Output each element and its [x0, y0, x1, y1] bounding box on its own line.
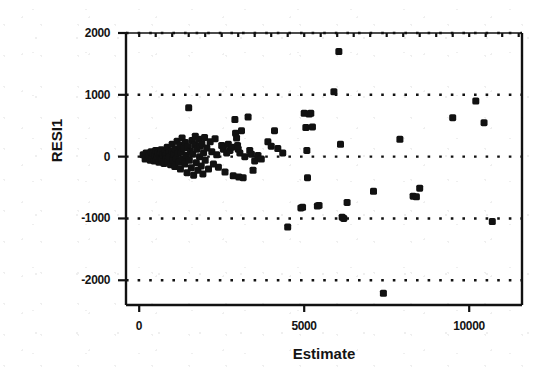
data-point — [481, 119, 488, 126]
data-point — [330, 88, 337, 95]
data-point — [231, 116, 238, 123]
data-point — [240, 174, 247, 181]
data-point — [258, 156, 265, 163]
y-tick-label-2000: 2000 — [46, 25, 110, 40]
data-points-layer — [140, 48, 496, 297]
data-point — [380, 290, 387, 297]
data-point — [309, 123, 316, 130]
data-point — [416, 185, 423, 192]
data-point — [186, 157, 193, 164]
data-point — [233, 135, 240, 142]
data-point — [396, 136, 403, 143]
data-point — [340, 215, 347, 222]
data-point — [241, 153, 248, 160]
data-point — [245, 114, 252, 121]
data-point — [212, 135, 219, 142]
data-point — [268, 143, 275, 150]
data-point — [303, 147, 310, 154]
data-point — [413, 193, 420, 200]
axis-tick-marks — [118, 33, 519, 312]
data-point — [449, 114, 456, 121]
data-point — [337, 141, 344, 148]
data-point — [213, 151, 220, 158]
y-tick-label--2000: -2000 — [46, 272, 110, 287]
data-point — [335, 48, 342, 55]
data-point — [307, 110, 314, 117]
scatter-plot-figure: 200010000-1000-2000 0500010000 RESI1 Est… — [0, 0, 543, 381]
x-tick-label-10000: 10000 — [432, 318, 506, 333]
plot-frame — [126, 33, 522, 305]
data-point — [370, 188, 377, 195]
data-point — [299, 204, 306, 211]
x-tick-label-5000: 5000 — [267, 318, 341, 333]
data-point — [215, 164, 222, 171]
data-point — [250, 167, 257, 174]
data-point — [472, 98, 479, 105]
data-point — [344, 199, 351, 206]
x-tick-label-0: 0 — [102, 318, 176, 333]
data-point — [302, 124, 309, 131]
data-point — [489, 218, 496, 225]
data-point — [222, 169, 229, 176]
data-point — [279, 149, 286, 156]
y-tick-label--1000: -1000 — [46, 210, 110, 225]
data-point — [238, 127, 245, 134]
data-point — [185, 104, 192, 111]
data-point — [248, 151, 255, 158]
data-point — [316, 202, 323, 209]
data-point — [284, 224, 291, 231]
y-axis-title: RESI1 — [48, 81, 65, 201]
data-point — [271, 127, 278, 134]
data-point — [202, 157, 209, 164]
data-point — [304, 174, 311, 181]
x-axis-title: Estimate — [126, 345, 522, 362]
